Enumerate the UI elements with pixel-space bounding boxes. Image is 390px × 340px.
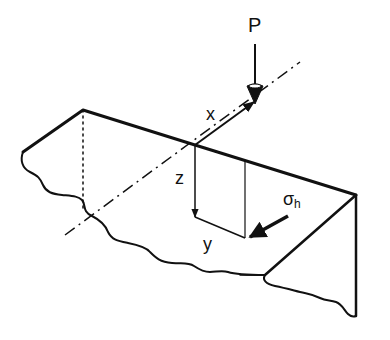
label-load-p: P — [248, 14, 261, 36]
label-y-axis: y — [203, 234, 212, 254]
label-x-axis: x — [206, 104, 215, 124]
load-arrow — [247, 44, 263, 104]
soil-halfspace-diagram: P x z y σh — [0, 0, 390, 340]
right-diagonal-edge — [265, 195, 356, 275]
wavy-break-line-side — [264, 275, 356, 316]
sigma-subscript: h — [294, 197, 301, 211]
label-z-axis: z — [175, 168, 184, 188]
label-sigma-h: σh — [283, 189, 301, 211]
x-axis-line — [195, 102, 254, 145]
wavy-break-line-front — [22, 152, 265, 275]
stress-arrow — [250, 216, 288, 237]
load-axis-dashdot — [65, 62, 300, 235]
block-outline — [22, 110, 356, 316]
top-edge — [23, 110, 356, 195]
sigma-symbol: σ — [283, 189, 294, 209]
